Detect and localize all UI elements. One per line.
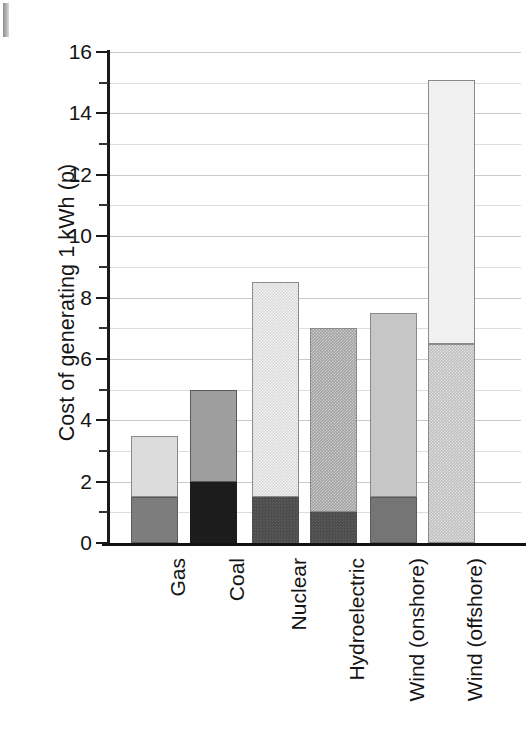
bar-segment (190, 390, 237, 482)
bar (190, 390, 237, 543)
y-tick-major (96, 51, 108, 53)
y-tick-minor (99, 143, 108, 145)
bar-chart-figure: Cost of generating 1 kWh (p) 02468101214… (0, 0, 531, 748)
x-tick-label: Hydroelectric (345, 558, 367, 681)
y-tick-label: 0 (44, 532, 92, 553)
x-tick-label: Coal (225, 558, 247, 601)
bar-segment (190, 482, 237, 543)
y-tick-major (96, 112, 108, 114)
x-tick-label: Nuclear (287, 558, 309, 630)
plot-area (110, 52, 521, 543)
bar-segment (370, 313, 417, 497)
y-tick-major (96, 235, 108, 237)
gridline-major (110, 52, 521, 53)
y-tick-label: 4 (44, 409, 92, 430)
x-tick-label: Gas (166, 558, 188, 597)
bar (131, 436, 178, 543)
bar-segment (370, 497, 417, 543)
y-tick-minor (99, 327, 108, 329)
x-tick-label: Wind (offshore) (463, 558, 485, 701)
x-tick-label: Wind (onshore) (405, 558, 427, 702)
y-tick-major (96, 481, 108, 483)
y-tick-major (96, 174, 108, 176)
bar-segment (131, 497, 178, 543)
bar-segment (428, 344, 475, 543)
bar (252, 282, 299, 543)
y-tick-minor (99, 266, 108, 268)
y-tick-label: 2 (44, 471, 92, 492)
y-tick-label: 10 (44, 225, 92, 246)
bar-segment (310, 512, 357, 543)
y-tick-label: 14 (44, 102, 92, 123)
bar-segment (428, 80, 475, 344)
y-tick-label: 12 (44, 164, 92, 185)
bar (310, 328, 357, 543)
y-tick-label: 6 (44, 348, 92, 369)
y-tick-minor (99, 511, 108, 513)
y-tick-minor (99, 204, 108, 206)
y-tick-major (96, 297, 108, 299)
x-axis-tick-labels: GasCoalNuclearHydroelectricWind (onshore… (0, 558, 531, 748)
bar-segment (131, 436, 178, 497)
bar (428, 80, 475, 543)
bar-segment (310, 328, 357, 512)
y-tick-label: 8 (44, 287, 92, 308)
bar-segment (252, 282, 299, 497)
y-tick-label: 16 (44, 41, 92, 62)
y-tick-major (96, 358, 108, 360)
bar (370, 313, 417, 543)
y-tick-minor (99, 450, 108, 452)
y-tick-major (96, 419, 108, 421)
y-tick-minor (99, 389, 108, 391)
y-tick-major (96, 542, 108, 544)
bar-segment (252, 497, 299, 543)
x-axis-spine (102, 543, 526, 546)
y-tick-minor (99, 82, 108, 84)
